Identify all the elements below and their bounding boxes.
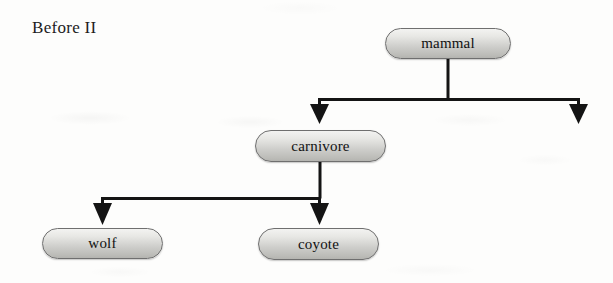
arrowhead-to-coyote xyxy=(310,203,329,225)
node-coyote[interactable]: coyote xyxy=(258,228,379,260)
node-carnivore[interactable]: carnivore xyxy=(255,130,386,162)
arrowhead-to-carnivore xyxy=(310,104,329,124)
node-mammal-label: mammal xyxy=(421,35,475,52)
arrowhead-to-wolf xyxy=(93,203,112,225)
node-coyote-label: coyote xyxy=(298,236,339,253)
node-mammal[interactable]: mammal xyxy=(385,28,511,59)
node-wolf[interactable]: wolf xyxy=(42,228,163,259)
diagram-canvas: Before II mammal carnivore wolf coyote xyxy=(0,0,613,283)
node-wolf-label: wolf xyxy=(88,235,116,252)
arrowhead-right-dangling xyxy=(569,104,588,124)
page-title: Before II xyxy=(32,18,97,38)
node-carnivore-label: carnivore xyxy=(291,138,349,155)
